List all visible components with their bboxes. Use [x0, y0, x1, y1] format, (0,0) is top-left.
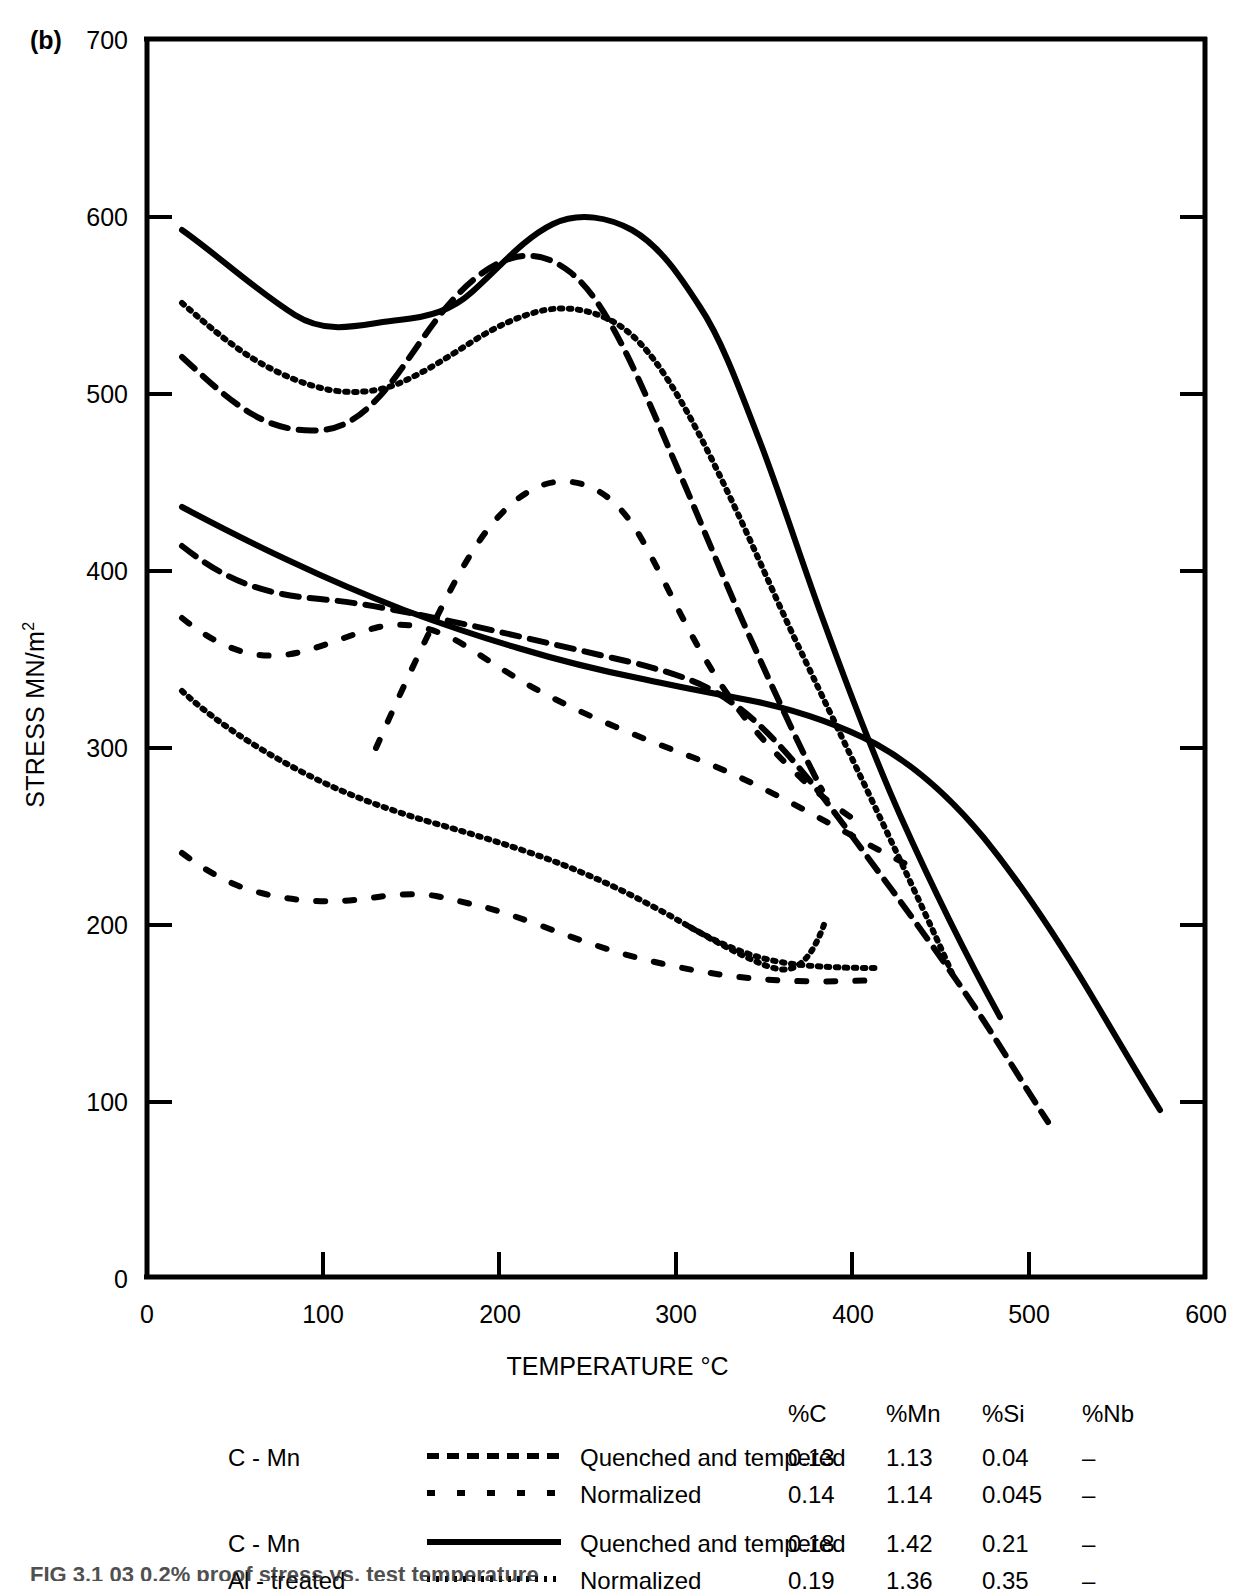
curve-upper-solid — [182, 217, 1000, 1017]
legend-alloy: C - Mn — [228, 1530, 418, 1558]
xtick-label-200: 200 — [455, 1300, 545, 1329]
ytick-label-200: 200 — [38, 911, 128, 940]
y-axis-title: STRESS MN/m2 — [20, 535, 49, 895]
curve-lower-dot-fine — [182, 691, 826, 969]
plot-area — [0, 0, 1235, 1340]
legend-row: C - Mn Quenched and tempered 0.13 1.13 0… — [0, 1444, 1235, 1481]
curve-upper-dash-med — [182, 256, 822, 790]
xtick-label-300: 300 — [631, 1300, 721, 1329]
data-curves — [182, 217, 1160, 1122]
legend-value-c: 0.13 — [788, 1444, 874, 1472]
curve-rising-dash-wide — [376, 481, 855, 820]
legend-line-sample-dash-med — [425, 1444, 565, 1468]
curve-upper-dot-fine — [182, 303, 954, 978]
curve-lower-solid — [182, 507, 1160, 1110]
legend-value-mn: 1.42 — [886, 1530, 972, 1558]
curve-middle-dash-med — [182, 546, 1048, 1122]
ytick-label-500: 500 — [38, 380, 128, 409]
legend-header-c: %C — [788, 1400, 827, 1428]
xtick-label-400: 400 — [808, 1300, 898, 1329]
legend-value-nb: – — [1082, 1444, 1168, 1472]
ytick-label-300: 300 — [38, 734, 128, 763]
legend-value-si: 0.21 — [982, 1530, 1068, 1558]
legend-value-si: 0.045 — [982, 1481, 1068, 1509]
legend-line-sample-solid — [425, 1530, 565, 1554]
legend-header-mn: %Mn — [886, 1400, 941, 1428]
legend-alloy: C - Mn — [228, 1444, 418, 1472]
curve-lower-dot-fine-tail — [690, 927, 880, 968]
xtick-label-0: 0 — [102, 1300, 192, 1329]
legend-header-nb: %Nb — [1082, 1400, 1134, 1428]
ytick-label-100: 100 — [38, 1088, 128, 1117]
legend-value-nb: – — [1082, 1481, 1168, 1509]
legend-value-si: 0.04 — [982, 1444, 1068, 1472]
xtick-label-500: 500 — [984, 1300, 1074, 1329]
legend-value-nb: – — [1082, 1530, 1168, 1558]
legend-line-sample-dash-wide — [425, 1481, 565, 1505]
legend-value-mn: 1.14 — [886, 1481, 972, 1509]
legend-value-c: 0.18 — [788, 1530, 874, 1558]
xtick-label-100: 100 — [278, 1300, 368, 1329]
y-axis-title-text: STRESS MN/m — [21, 631, 49, 808]
legend-value-c: 0.14 — [788, 1481, 874, 1509]
ytick-label-700: 700 — [38, 26, 128, 55]
ytick-label-0: 0 — [38, 1265, 128, 1294]
legend-header-si: %Si — [982, 1400, 1025, 1428]
ytick-label-400: 400 — [38, 557, 128, 586]
legend-row: Normalized 0.14 1.14 0.045 – — [0, 1481, 1235, 1518]
xtick-label-600: 600 — [1161, 1300, 1235, 1329]
ytick-label-600: 600 — [38, 203, 128, 232]
x-axis-title: TEMPERATURE °C — [0, 1352, 1235, 1381]
figure-caption: FIG 3.1 03 0.2% proof stress vs. test te… — [30, 1562, 1210, 1581]
y-axis-title-exponent: 2 — [20, 622, 37, 631]
axis-lines — [144, 37, 1207, 1279]
legend-value-mn: 1.13 — [886, 1444, 972, 1472]
